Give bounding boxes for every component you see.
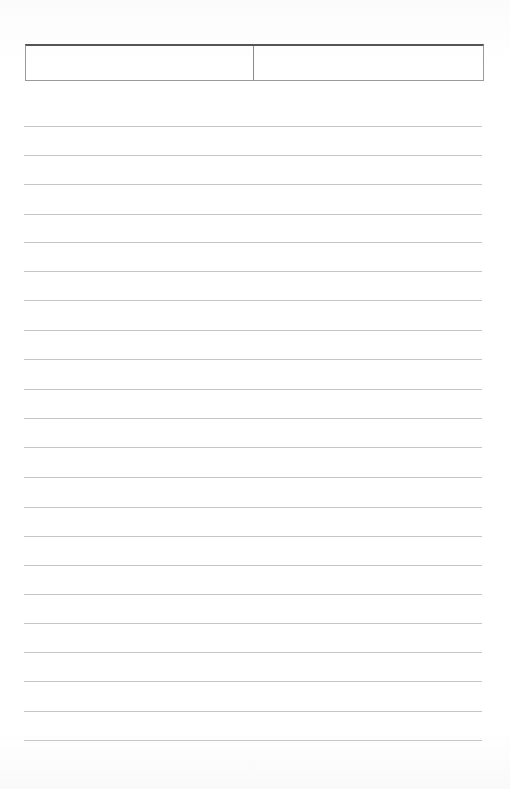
ruled-line <box>24 565 482 566</box>
ruled-line <box>24 536 482 537</box>
ruled-line <box>24 155 482 156</box>
ruled-line <box>24 594 482 595</box>
ruled-lines <box>24 0 482 789</box>
ruled-line <box>24 623 482 624</box>
ruled-line <box>24 477 482 478</box>
notebook-page <box>0 0 510 789</box>
ruled-line <box>24 681 482 682</box>
ruled-line <box>24 652 482 653</box>
ruled-line <box>24 711 482 712</box>
ruled-line <box>24 389 482 390</box>
ruled-line <box>24 242 482 243</box>
ruled-line <box>24 126 482 127</box>
ruled-line <box>24 330 482 331</box>
ruled-line <box>24 214 482 215</box>
ruled-line <box>24 300 482 301</box>
ruled-line <box>24 418 482 419</box>
ruled-line <box>24 447 482 448</box>
ruled-line <box>24 507 482 508</box>
ruled-line <box>24 359 482 360</box>
ruled-line <box>24 740 482 741</box>
ruled-line <box>24 271 482 272</box>
ruled-line <box>24 184 482 185</box>
